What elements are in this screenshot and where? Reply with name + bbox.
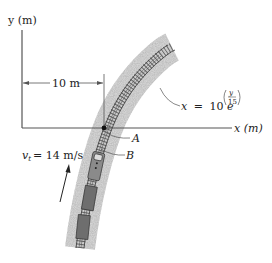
point-a-label: A [131,132,140,145]
velocity-arrow [60,169,68,202]
curve-equation: x = 10 e y 15 [181,89,240,113]
dimension-label: 10 m [52,77,80,90]
svg-text:15: 15 [228,98,237,106]
velocity-label: vt= 14 m/s [22,149,83,163]
arrowhead-up-icon [66,164,71,173]
arrowhead-right-icon [97,81,103,85]
train-curve-diagram: y (m) x (m) 10 m A B x = [0,0,272,263]
gravel-bed [80,47,172,248]
svg-text:x = 10 e: x = 10 e [181,100,234,113]
leader-equation [160,88,180,106]
point-a-marker [102,126,107,131]
svg-text:y: y [228,89,234,97]
arrowhead-left-icon [23,81,29,85]
x-axis-label: x (m) [234,122,263,135]
y-axis-label: y (m) [7,14,37,27]
train-car-2 [76,214,90,239]
point-b-label: B [125,149,134,162]
